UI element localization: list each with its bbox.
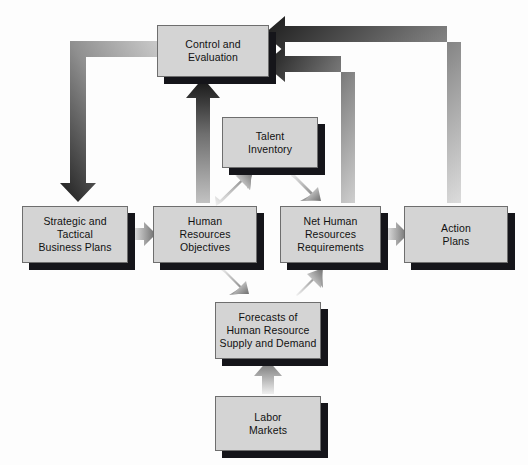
node-label: Talent Inventory (246, 130, 294, 156)
node-strategic-and-tactical-business-plans[interactable]: Strategic and Tactical Business Plans (22, 206, 128, 263)
node-human-resources-objectives[interactable]: Human Resources Objectives (153, 206, 257, 263)
node-control-and-evaluation[interactable]: Control and Evaluation (157, 25, 269, 77)
node-label: Labor Markets (247, 411, 289, 437)
node-label: Control and Evaluation (183, 38, 242, 64)
node-labor-markets[interactable]: Labor Markets (215, 396, 321, 451)
node-label: Net Human Resources Requirements (295, 215, 366, 253)
node-label: Strategic and Tactical Business Plans (36, 215, 113, 253)
node-label: Forecasts of Human Resource Supply and D… (218, 311, 319, 349)
connector-forecast-to-netreq (296, 268, 323, 296)
hr-planning-diagram: Control and Evaluation Talent Inventory … (0, 0, 528, 465)
node-talent-inventory[interactable]: Talent Inventory (222, 117, 318, 168)
connector-hrobj-to-forecast (221, 267, 249, 295)
node-forecasts-of-human-resource-supply-and-demand[interactable]: Forecasts of Human Resource Supply and D… (215, 302, 321, 359)
connector-hrobj-to-control (186, 78, 220, 203)
connector-talent-to-netreq (291, 172, 321, 201)
connector-control-to-strategic (60, 41, 157, 202)
node-net-human-resources-requirements[interactable]: Net Human Resources Requirements (280, 206, 381, 263)
connector-hrobj-to-talent (215, 170, 253, 206)
node-label: Action Plans (439, 222, 473, 248)
node-label: Human Resources Objectives (177, 215, 232, 253)
node-action-plans[interactable]: Action Plans (404, 206, 508, 263)
